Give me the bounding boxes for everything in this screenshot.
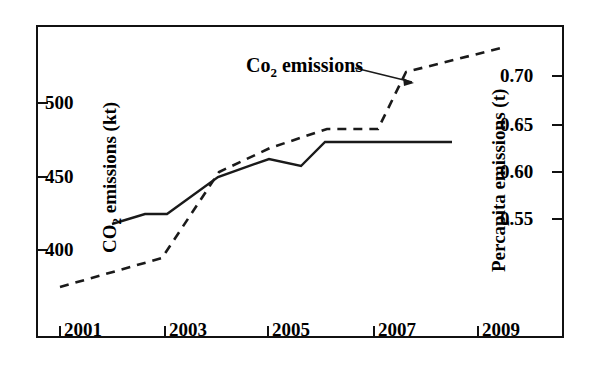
y-left-axis-title: CO2 emissions (kt) [100,102,123,253]
x-tick-label-2007: 2007 [378,320,416,339]
x-tick-label-2001: 2001 [64,320,102,339]
y-right-axis-title: Percapita emissions (t) [489,89,508,272]
x-tick-label-2005: 2005 [272,320,310,339]
y-right-tick-label-070: 0.70 [500,66,533,85]
x-tick-label-2009: 2009 [482,320,520,339]
annotation-text-suffix: emissions [277,54,363,76]
y-left-tick-label-450: 450 [45,167,74,186]
y-left-axis-title-prefix: CO [99,225,120,254]
y-left-tick-label-500: 500 [45,93,74,112]
x-tick-label-2003: 2003 [169,320,207,339]
y-left-tick-label-400: 400 [45,240,74,259]
annotation-text-prefix: Co [246,54,270,76]
y-left-axis-title-suffix: emissions (kt) [99,102,120,218]
annotation-co2-emissions: Co2 emissions [246,55,363,79]
chart-figure: 500 450 400 0.70 0.65 0.60 0.55 2001 200… [0,0,590,366]
y-left-axis-title-subscript: 2 [109,218,124,225]
